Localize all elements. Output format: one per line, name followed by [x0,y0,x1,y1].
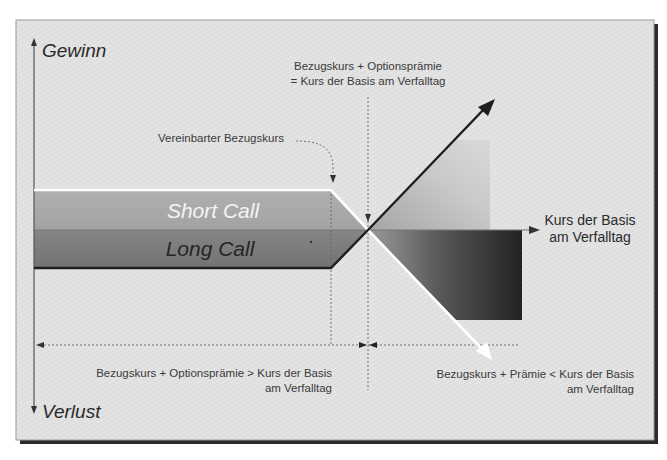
diagram-canvas: Gewinn Verlust Bezugskurs + Optionsprämi… [0,0,667,460]
left-region-label-line2: am Verfalltag [265,382,332,394]
short-call-label: Short Call [167,199,261,222]
long-call-label: Long Call [166,237,256,260]
strike-label: Vereinbarter Bezugskurs [158,132,284,144]
y-axis-label-gewinn: Gewinn [42,40,106,61]
x-axis-label-line1: Kurs der Basis [544,212,635,228]
y-axis-label-verlust: Verlust [42,401,101,422]
breakeven-label-line1: Bezugskurs + Optionsprämie [294,60,442,72]
band-dot [310,241,312,243]
breakeven-label-line2: = Kurs der Basis am Verfalltag [290,75,445,87]
left-region-label-line1: Bezugskurs + Optionsprämie > Kurs der Ba… [96,367,332,379]
x-axis-label-line2: am Verfalltag [549,229,631,245]
right-region-label-line1: Bezugskurs + Prämie < Kurs der Basis [437,368,635,380]
right-region-label-line2: am Verfalltag [567,383,634,395]
payoff-diagram: Gewinn Verlust Bezugskurs + Optionsprämi… [0,0,667,460]
